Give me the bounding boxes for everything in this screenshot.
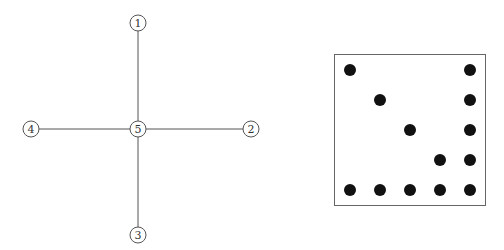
node-label: 3 [135,229,142,242]
matrix-dot-r2-c5 [464,94,476,106]
matrix-dot-r3-c5 [464,124,476,136]
matrix-dot-r1-c1 [344,64,356,76]
graph-node-5: 5 [130,121,146,137]
matrix-dot-r2-c2 [374,94,386,106]
matrix-dot-r5-c2 [374,184,386,196]
matrix-dot-r5-c1 [344,184,356,196]
matrix-dot-r3-c3 [404,124,416,136]
graph-node-3: 3 [130,227,146,243]
graph-node-2: 2 [243,121,259,137]
matrix-dot-r5-c4 [434,184,446,196]
matrix-dot-r1-c5 [464,64,476,76]
node-label: 2 [248,123,255,136]
adjacency-matrix [335,55,486,206]
graph-node-1: 1 [130,15,146,31]
graph-node-4: 4 [23,121,39,137]
matrix-dot-r5-c5 [464,184,476,196]
diagram-canvas: 12345 [0,0,504,250]
node-label: 1 [135,17,142,30]
matrix-dot-r4-c5 [464,154,476,166]
node-label: 5 [135,123,142,136]
matrix-dot-r5-c3 [404,184,416,196]
matrix-dot-r4-c4 [434,154,446,166]
node-label: 4 [28,123,35,136]
